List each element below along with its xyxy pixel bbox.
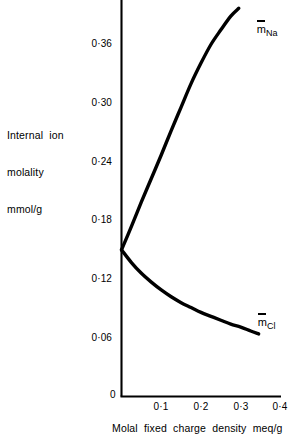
y-tick-label-006: 0·06 xyxy=(76,332,112,344)
series-line-na xyxy=(122,8,239,250)
y-axis-label-line-1: Internal ion xyxy=(7,129,64,141)
y-tick-label-024: 0·24 xyxy=(76,156,112,168)
series-annotation-cl-subscript: Cl xyxy=(267,320,276,330)
series-line-cl xyxy=(122,250,259,334)
x-tick-label-01: 0·1 xyxy=(147,401,175,413)
y-axis-label-line-3: mmol/g xyxy=(7,203,64,215)
y-axis-label: Internal ion molality mmol/g xyxy=(7,104,64,240)
y-tick-label-036: 0·36 xyxy=(76,38,112,50)
x-tick-label-04: 0·4 xyxy=(266,401,292,413)
chart-figure: Internal ion molality mmol/g Molal fixed… xyxy=(0,0,292,440)
x-axis-label: Molal fixed charge density meq/g xyxy=(112,422,283,434)
series-annotation-na: mNa xyxy=(244,10,278,51)
origin-tick-label: 0 xyxy=(110,389,116,401)
y-tick-label-012: 0·12 xyxy=(76,273,112,285)
y-tick-label-030: 0·30 xyxy=(76,97,112,109)
x-tick-label-02: 0·2 xyxy=(187,401,215,413)
x-tick-label-03: 0·3 xyxy=(227,401,255,413)
series-annotation-cl: mCl xyxy=(245,303,276,344)
series-annotation-cl-symbol: m xyxy=(258,316,267,328)
y-axis-label-line-2: molality xyxy=(7,166,64,178)
series-annotation-na-subscript: Na xyxy=(266,27,278,37)
series-annotation-na-symbol: m xyxy=(257,23,266,35)
y-tick-label-018: 0·18 xyxy=(76,214,112,226)
